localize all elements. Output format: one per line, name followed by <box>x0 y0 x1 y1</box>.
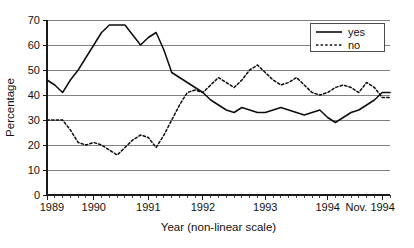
legend-label-yes: yes <box>348 26 366 38</box>
ytick-label-50: 50 <box>28 64 40 76</box>
legend-label-no: no <box>348 39 360 51</box>
y-axis-title: Percentage <box>4 78 16 137</box>
xtick-label-1990: 1990 <box>82 201 106 213</box>
xtick-label-1993: 1993 <box>253 201 277 213</box>
ytick-label-40: 40 <box>28 89 40 101</box>
ytick-label-10: 10 <box>28 164 40 176</box>
x-axis-title: Year (non-linear scale) <box>161 221 276 233</box>
xtick-label-1992: 1992 <box>191 201 215 213</box>
ytick-label-60: 60 <box>28 39 40 51</box>
series-line-no <box>47 65 390 155</box>
line-chart: 010203040506070198919901991199219931994N… <box>0 0 414 248</box>
ytick-label-0: 0 <box>34 189 40 201</box>
xtick-label-Nov--1994: Nov. 1994 <box>346 201 395 213</box>
ytick-label-20: 20 <box>28 139 40 151</box>
xtick-label-1991: 1991 <box>136 201 160 213</box>
xtick-label-1994: 1994 <box>315 201 339 213</box>
ytick-label-70: 70 <box>28 14 40 26</box>
xtick-label-1989: 1989 <box>40 201 64 213</box>
legend-box <box>310 23 384 51</box>
ytick-label-30: 30 <box>28 114 40 126</box>
chart-container: 010203040506070198919901991199219931994N… <box>0 0 414 248</box>
